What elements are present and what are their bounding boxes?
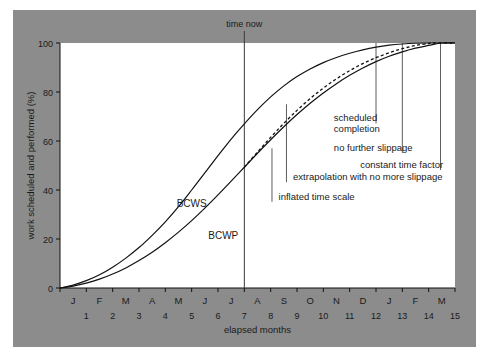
x-tick-label-number: 13 (397, 311, 407, 321)
y-tick-label: 80 (43, 88, 53, 98)
x-tick-label-month: J (202, 295, 207, 306)
x-tick-label-month: S (281, 295, 287, 306)
series-label-bcwp: BCWP (208, 230, 238, 241)
y-tick-label: 0 (48, 284, 53, 294)
x-tick-label-number: 8 (268, 311, 273, 321)
x-tick-label-number: 10 (318, 311, 328, 321)
x-tick-label-month: M (438, 295, 446, 306)
x-tick-label-number: 9 (294, 311, 299, 321)
x-tick-label-month: J (387, 295, 392, 306)
x-tick-label-month: F (97, 295, 103, 306)
y-tick-label: 20 (43, 235, 53, 245)
annotation-no-further-slippage: no further slippage (334, 142, 413, 153)
annotation-extrapolation-with-no-more-slippage: extrapolation with no more slippage (293, 171, 442, 182)
x-tick-label-month: M (122, 295, 130, 306)
annotation-constant-time-factor: constant time factor (360, 159, 443, 170)
x-tick-label-number: 4 (163, 311, 168, 321)
x-axis-title: elapsed months (224, 324, 291, 335)
y-axis-title: work scheduled and performed (%) (25, 92, 36, 241)
x-tick-label-month: A (149, 295, 156, 306)
annotation-scheduled-completion: scheduled (334, 112, 377, 123)
x-tick-label-month: D (359, 295, 366, 306)
y-tick-label: 100 (38, 39, 53, 49)
x-tick-label-number: 14 (424, 311, 434, 321)
annotation-scheduled-completion-line2: completion (334, 123, 380, 134)
x-tick-label-number: 7 (242, 311, 247, 321)
x-tick-label-number: 11 (345, 311, 354, 321)
work-performed-chart: 020406080100JFMAMJJASONDJFM1234567891011… (13, 10, 476, 347)
x-tick-label-number: 12 (371, 311, 381, 321)
x-tick-label-month: M (175, 295, 183, 306)
x-tick-label-month: N (333, 295, 340, 306)
x-tick-label-number: 6 (215, 311, 220, 321)
x-tick-label-number: 1 (84, 311, 89, 321)
x-tick-label-month: J (71, 295, 76, 306)
x-tick-label-month: F (413, 295, 419, 306)
x-tick-label-month: A (254, 295, 261, 306)
x-tick-label-number: 5 (189, 311, 194, 321)
y-tick-label: 40 (43, 186, 53, 196)
x-tick-label-number: 3 (136, 311, 141, 321)
annotation-inflated-time-scale: inflated time scale (279, 191, 355, 202)
time-now-label: time now (226, 19, 263, 29)
y-tick-label: 60 (43, 137, 53, 147)
x-tick-label-month: O (306, 295, 313, 306)
series-label-bcws: BCWS (177, 198, 207, 209)
x-tick-label-number: 2 (110, 311, 115, 321)
figure-panel: 020406080100JFMAMJJASONDJFM1234567891011… (13, 10, 476, 347)
x-tick-label-month: J (229, 295, 234, 306)
x-tick-label-number: 15 (450, 311, 460, 321)
